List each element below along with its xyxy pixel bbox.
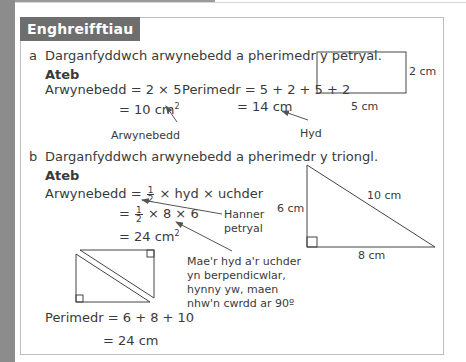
arrow-area (166, 106, 177, 122)
arrow-perpendicular (176, 222, 232, 251)
arrow-length (282, 111, 308, 120)
right-angle-marker (307, 237, 317, 247)
arrow-half-rectangle (142, 200, 222, 214)
rectangle-shape (317, 52, 406, 93)
lower-half-triangle (76, 254, 150, 302)
diagrams-layer (0, 0, 466, 362)
right-triangle-shape (307, 165, 435, 247)
upper-half-triangle (80, 250, 154, 298)
